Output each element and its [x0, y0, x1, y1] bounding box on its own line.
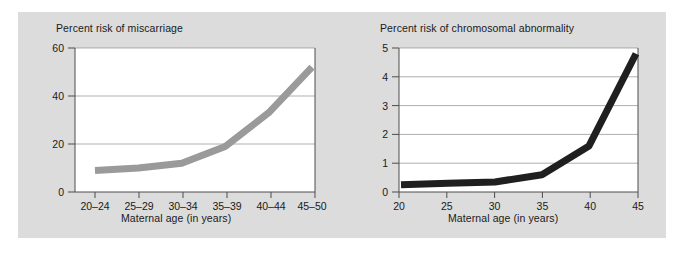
- x-tick-label-2: 30–34: [168, 200, 197, 212]
- x-axis-label-miscarriage: Maternal age (in years): [121, 212, 231, 224]
- x-tick-label-4: 40–44: [256, 200, 285, 212]
- y-tick-label-40: 40: [52, 90, 64, 102]
- figure-panel: Percent risk of miscarriage 60 40 20 0 2…: [18, 12, 666, 238]
- x-tick-label-3: 35: [537, 200, 549, 212]
- x-tick-label-5: 45–50: [297, 200, 326, 212]
- x-tick-label-5: 45: [632, 200, 644, 212]
- plot-area-chromosomal: 5 4 3 2 1 0 20 25 30 35 40 45: [348, 12, 666, 238]
- chart-miscarriage: Percent risk of miscarriage 60 40 20 0 2…: [18, 12, 342, 238]
- chart-chromosomal: Percent risk of chromosomal abnormality …: [348, 12, 666, 238]
- x-tick-label-2: 30: [489, 200, 501, 212]
- x-tick-label-3: 35–39: [212, 200, 241, 212]
- y-tick-label-5: 5: [382, 42, 388, 54]
- y-tick-label-4: 4: [382, 71, 388, 83]
- plot-area-miscarriage: 60 40 20 0 20–24 25–29 30–34 35–39 40–44…: [18, 12, 342, 238]
- y-tick-label-60: 60: [52, 42, 64, 54]
- y-tick-label-20: 20: [52, 138, 64, 150]
- y-tick-label-1: 1: [382, 157, 388, 169]
- y-tick-label-0: 0: [382, 186, 388, 198]
- x-tick-label-0: 20–24: [80, 200, 109, 212]
- x-tick-label-1: 25–29: [124, 200, 153, 212]
- y-tick-label-2: 2: [382, 128, 388, 140]
- x-axis-label-chromosomal: Maternal age (in years): [448, 212, 558, 224]
- y-tick-label-3: 3: [382, 100, 388, 112]
- x-tick-label-0: 20: [393, 200, 405, 212]
- x-tick-label-4: 40: [584, 200, 596, 212]
- x-tick-label-1: 25: [441, 200, 453, 212]
- y-tick-label-0: 0: [58, 186, 64, 198]
